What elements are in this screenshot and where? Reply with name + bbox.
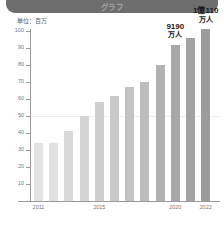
y-axis-tick-label: 40 bbox=[10, 130, 24, 136]
bar bbox=[34, 143, 43, 201]
y-axis-tick bbox=[26, 167, 31, 168]
bar bbox=[80, 116, 89, 201]
y-axis-tick-label: 10 bbox=[10, 181, 24, 187]
annotation-unit: 万人 bbox=[186, 16, 224, 23]
bar-value-annotation: 1億110万人 bbox=[186, 7, 224, 23]
bar bbox=[64, 131, 73, 201]
annotation-unit: 万人 bbox=[155, 31, 195, 38]
bar bbox=[49, 143, 58, 201]
bar bbox=[95, 102, 104, 201]
x-axis-tick-label: 2011 bbox=[28, 205, 50, 211]
y-axis-tick bbox=[26, 184, 31, 185]
y-axis-tick bbox=[26, 48, 31, 49]
bar bbox=[201, 29, 210, 201]
bar bbox=[125, 87, 134, 201]
bar bbox=[171, 45, 180, 201]
bar bbox=[110, 96, 119, 201]
y-axis-tick-label: 100 bbox=[10, 28, 24, 34]
y-axis-tick-label: 30 bbox=[10, 147, 24, 153]
annotation-value: 1億110 bbox=[193, 6, 218, 15]
y-axis-tick-label: 60 bbox=[10, 96, 24, 102]
y-axis-tick bbox=[26, 133, 31, 134]
bar-value-annotation: 9190万人 bbox=[155, 23, 195, 39]
x-axis-line bbox=[18, 201, 220, 202]
y-axis-tick bbox=[26, 150, 31, 151]
plot-area: 102030405060708090100 2011201520202022 9… bbox=[0, 0, 224, 226]
bar bbox=[186, 38, 195, 201]
x-axis-tick-label: 2020 bbox=[164, 205, 186, 211]
y-axis-tick-label: 70 bbox=[10, 79, 24, 85]
chart-container: グラフ 単位：百万 102030405060708090100 20112015… bbox=[0, 0, 224, 226]
y-axis-tick bbox=[26, 99, 31, 100]
y-axis-tick-label: 80 bbox=[10, 62, 24, 68]
bar bbox=[140, 82, 149, 201]
x-axis-tick-label: 2022 bbox=[195, 205, 217, 211]
annotation-value: 9190 bbox=[166, 22, 184, 31]
y-axis-tick-label: 50 bbox=[10, 113, 24, 119]
x-axis-tick-label: 2015 bbox=[88, 205, 110, 211]
bar bbox=[156, 65, 165, 201]
y-axis-tick bbox=[26, 31, 31, 32]
y-axis-tick-label: 90 bbox=[10, 45, 24, 51]
y-axis-tick-label: 20 bbox=[10, 164, 24, 170]
y-axis-tick bbox=[26, 65, 31, 66]
y-axis-tick bbox=[26, 82, 31, 83]
